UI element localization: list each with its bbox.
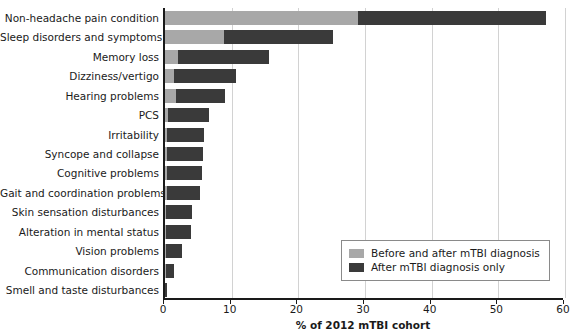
gridline-60 — [565, 8, 566, 298]
legend-swatch-after-only — [349, 263, 364, 272]
x-tick-label-40: 40 — [423, 303, 436, 316]
bar-row — [165, 108, 209, 122]
legend-item-before-and-after: Before and after mTBI diagnosis — [349, 246, 542, 260]
y-axis-label: Gait and coordination problems — [0, 187, 159, 199]
bar-segment-after-only — [358, 11, 546, 25]
y-axis-label: Smell and taste disturbances — [0, 284, 159, 296]
y-axis-label: Skin sensation disturbances — [0, 206, 159, 218]
bar-segment-after-only — [166, 205, 191, 219]
bar-segment-after-only — [166, 225, 191, 239]
bar-row — [165, 264, 174, 278]
y-axis-label: Vision problems — [0, 245, 159, 257]
bar-row — [165, 30, 333, 44]
y-axis-label: Alteration in mental status — [0, 226, 159, 238]
bar-segment-after-only — [176, 89, 225, 103]
bar-row — [165, 11, 546, 25]
bar-segment-after-only — [167, 128, 204, 142]
y-axis-label: Non-headache pain condition — [0, 12, 159, 24]
bar-segment-before-and-after — [165, 69, 174, 83]
bar-row — [165, 205, 192, 219]
y-axis-label: PCS — [0, 109, 159, 121]
bar-segment-after-only — [168, 108, 209, 122]
x-tick-label-30: 30 — [356, 303, 369, 316]
legend-label-before-and-after: Before and after mTBI diagnosis — [371, 247, 540, 260]
bar-segment-after-only — [174, 69, 235, 83]
y-axis-label: Hearing problems — [0, 90, 159, 102]
bar-segment-before-and-after — [165, 11, 358, 25]
y-axis-category-labels: Non-headache pain conditionSleep disorde… — [0, 8, 159, 300]
x-tick-label-10: 10 — [223, 303, 236, 316]
bar-row — [165, 283, 167, 297]
bar-segment-after-only — [167, 186, 200, 200]
legend-swatch-before-and-after — [349, 249, 364, 258]
bar-segment-before-and-after — [165, 30, 224, 44]
y-axis-label: Irritability — [0, 129, 159, 141]
legend-item-after-only: After mTBI diagnosis only — [349, 260, 542, 274]
bar-segment-before-and-after — [165, 89, 176, 103]
bar-segment-after-only — [224, 30, 333, 44]
bar-segment-after-only — [165, 283, 167, 297]
bar-row — [165, 244, 182, 258]
x-tick-label-0: 0 — [160, 303, 167, 316]
bar-row — [165, 147, 203, 161]
bar-row — [165, 225, 191, 239]
y-axis-label: Sleep disorders and symptoms — [0, 31, 159, 43]
bar-segment-before-and-after — [165, 50, 178, 64]
bar-row — [165, 50, 269, 64]
x-tick-label-20: 20 — [290, 303, 303, 316]
y-axis-label: Dizziness/vertigo — [0, 70, 159, 82]
y-axis-label: Communication disorders — [0, 265, 159, 277]
y-axis-label: Cognitive problems — [0, 167, 159, 179]
bar-segment-after-only — [167, 166, 202, 180]
bar-row — [165, 186, 200, 200]
x-tick-label-60: 60 — [556, 303, 569, 316]
bar-row — [165, 89, 225, 103]
bar-segment-after-only — [167, 147, 203, 161]
bar-segment-after-only — [178, 50, 269, 64]
bar-row — [165, 128, 204, 142]
chart-legend: Before and after mTBI diagnosis After mT… — [341, 240, 550, 281]
bar-row — [165, 69, 236, 83]
legend-label-after-only: After mTBI diagnosis only — [371, 261, 505, 274]
x-axis-ticks: 0102030405060 — [163, 300, 563, 316]
bar-row — [165, 166, 202, 180]
x-tick-label-50: 50 — [490, 303, 503, 316]
y-axis-label: Syncope and collapse — [0, 148, 159, 160]
y-axis-label: Memory loss — [0, 51, 159, 63]
bar-segment-after-only — [166, 244, 181, 258]
bar-segment-after-only — [166, 264, 174, 278]
x-axis-title: % of 2012 mTBI cohort — [163, 319, 563, 331]
